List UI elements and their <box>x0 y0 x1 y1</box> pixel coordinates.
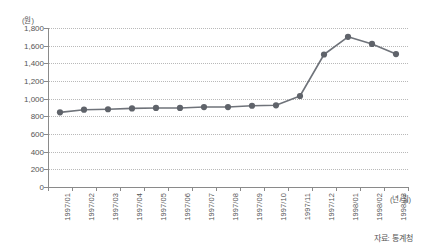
y-axis-ticks: 02004006008001,0001,2001,4001,6001,800 <box>0 0 44 250</box>
y-tick-label: 800 <box>31 112 44 121</box>
x-tick-mark <box>408 187 409 191</box>
data-point-marker <box>129 105 135 111</box>
data-point-marker <box>177 105 183 111</box>
data-point-marker <box>321 51 327 57</box>
data-point-marker <box>369 41 375 47</box>
data-point-marker <box>273 102 279 108</box>
x-tick-label: 1997/11 <box>303 193 312 220</box>
source-note: 자료: 통계청 <box>374 232 413 243</box>
x-tick-label: 1997/04 <box>135 193 144 221</box>
series-line-group <box>48 28 408 188</box>
y-tick-label: 1,600 <box>24 41 44 50</box>
data-point-marker <box>345 34 351 40</box>
y-tick-label: 1,800 <box>24 24 44 33</box>
y-tick-label: 1,200 <box>24 77 44 86</box>
x-tick-label: 1997/08 <box>231 193 240 221</box>
y-tick-label: 200 <box>31 165 44 174</box>
x-tick-label: 1997/02 <box>87 193 96 221</box>
data-point-marker <box>105 106 111 112</box>
x-tick-label: 1997/01 <box>63 193 72 221</box>
data-point-marker <box>249 103 255 109</box>
y-tick-label: 600 <box>31 130 44 139</box>
x-tick-label: 1997/10 <box>279 193 288 221</box>
x-tick-label: 1997/05 <box>159 193 168 221</box>
data-point-marker <box>297 93 303 99</box>
series-line <box>60 37 396 113</box>
data-point-marker <box>57 109 63 115</box>
y-tick-label: 1,400 <box>24 59 44 68</box>
y-tick-label: 1,000 <box>24 94 44 103</box>
x-tick-label: 1997/06 <box>183 193 192 221</box>
data-point-marker <box>225 104 231 110</box>
data-point-marker <box>81 107 87 113</box>
x-tick-label: 1997/12 <box>327 193 336 221</box>
x-tick-label: 1997/09 <box>255 193 264 221</box>
x-tick-label: 1997/07 <box>207 193 216 221</box>
x-axis-unit-label: (년/월) <box>390 193 411 204</box>
line-chart: (원) 02004006008001,0001,2001,4001,6001,8… <box>0 0 423 250</box>
x-tick-label: 1998/02 <box>375 193 384 221</box>
data-point-marker <box>393 51 399 57</box>
y-tick-label: 400 <box>31 147 44 156</box>
x-tick-label: 1998/01 <box>351 193 360 221</box>
data-point-marker <box>153 105 159 111</box>
data-point-marker <box>201 104 207 110</box>
x-tick-label: 1997/03 <box>111 193 120 221</box>
